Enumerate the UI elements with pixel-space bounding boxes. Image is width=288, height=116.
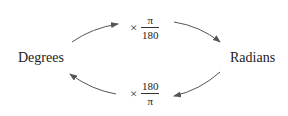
- denominator: π: [148, 95, 154, 107]
- arrow-bottom-to-degrees: [70, 74, 116, 94]
- fraction-bar: [141, 27, 159, 28]
- multiply-sign: ×: [130, 20, 137, 36]
- to-degrees-factor: × 180 π: [130, 80, 159, 107]
- numerator: 180: [142, 80, 159, 92]
- to-radians-factor: × π 180: [130, 14, 159, 41]
- degrees-label: Degrees: [18, 50, 64, 66]
- fraction: 180 π: [141, 80, 159, 107]
- fraction: π 180: [141, 14, 159, 41]
- numerator: π: [148, 14, 154, 26]
- arrow-radians-to-bottom: [174, 72, 220, 96]
- radians-label: Radians: [230, 50, 275, 66]
- arrow-top-to-radians: [174, 22, 220, 42]
- arrow-degrees-to-top: [72, 24, 118, 42]
- denominator: 180: [142, 29, 159, 41]
- multiply-sign: ×: [130, 86, 137, 102]
- fraction-bar: [141, 93, 159, 94]
